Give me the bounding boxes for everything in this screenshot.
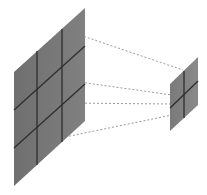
diagram-canvas bbox=[0, 0, 207, 195]
input-panel bbox=[14, 8, 85, 186]
input-panel-face bbox=[14, 8, 85, 186]
output-panel bbox=[170, 57, 198, 131]
